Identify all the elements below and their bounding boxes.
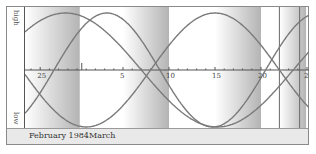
high-label: high	[8, 10, 24, 26]
biorhythm-plot: 25510152025	[25, 7, 309, 128]
y-axis-labels: high low	[7, 7, 25, 128]
x-tick-label: 25	[304, 72, 309, 80]
month-label-march: March	[89, 131, 115, 140]
biorhythm-chart-frame: high low 25510152025 February 1984 March	[6, 6, 309, 145]
x-tick-label: 5	[120, 72, 124, 80]
plot-area: 25510152025	[25, 7, 309, 128]
x-tick-label: 10	[166, 72, 175, 80]
x-tick-label: 15	[212, 72, 221, 80]
weekend-band	[279, 7, 306, 128]
weekend-bands	[25, 7, 306, 128]
month-label-february: February 1984	[29, 131, 89, 140]
month-footer: February 1984 March	[7, 128, 308, 144]
x-tick-label: 25	[37, 72, 46, 80]
low-label: low	[8, 112, 24, 124]
weekend-band	[215, 7, 261, 128]
